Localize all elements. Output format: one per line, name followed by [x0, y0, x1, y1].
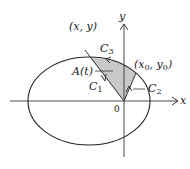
- curve-label-c2: C2: [148, 82, 162, 96]
- region-label-a-t: A(t): [71, 65, 93, 78]
- origin-label: 0: [114, 104, 120, 114]
- x-axis-label: x: [180, 94, 187, 107]
- curve-label-c1: C1: [89, 80, 103, 94]
- moving-point-label: (x, y): [69, 20, 97, 33]
- fixed-point-label: (x0, y0): [134, 58, 172, 72]
- y-axis-label: y: [118, 10, 126, 23]
- curve-label-c3: C3: [100, 42, 114, 56]
- ellipse-area-diagram: (x, y) (x0, y0) A(t) C1 C2 C3 x y 0: [0, 0, 190, 169]
